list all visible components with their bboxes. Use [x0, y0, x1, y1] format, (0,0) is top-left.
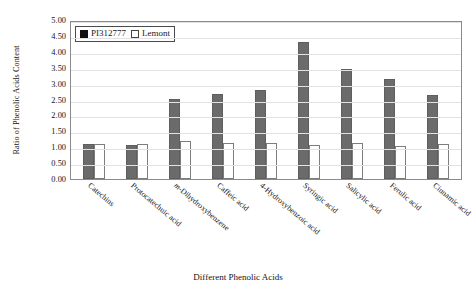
y-axis-title: Ratio of Phenolic Acids Content	[10, 18, 24, 182]
bar-lemont	[395, 146, 406, 179]
x-axis-tick-label: Catechins	[86, 181, 116, 208]
y-axis-tick-label: 1.50	[51, 127, 66, 136]
chart-root: Ratio of Phenolic Acids Content 0.000.50…	[0, 0, 476, 293]
y-axis-tick-label: 5.00	[51, 16, 66, 25]
bar-group	[245, 22, 288, 179]
grid-line	[71, 70, 461, 71]
bar-pi312777	[298, 42, 309, 179]
bar-groups	[71, 22, 461, 179]
bar-group	[373, 22, 416, 179]
grid-line	[71, 133, 461, 134]
grid-line	[71, 54, 461, 55]
grid-line	[71, 38, 461, 39]
grid-line	[71, 102, 461, 103]
x-axis-tick-label: Cinnamic acid	[431, 181, 472, 218]
bar-group	[116, 22, 159, 179]
bar-pi312777	[427, 95, 438, 179]
bar-pi312777	[169, 99, 180, 179]
x-axis-tick-label: Salicylic acid	[345, 181, 384, 216]
chart-legend: PI312777 Lemont	[75, 26, 175, 42]
grid-line	[71, 86, 461, 87]
y-axis-tick-label: 0.50	[51, 159, 66, 168]
x-axis-tick-label: Ferulic acid	[388, 181, 423, 212]
x-axis-title: Different Phenolic Acids	[0, 272, 476, 282]
x-axis-tick-labels: CatechinsProtocatechuic acidm-Dihydroxyb…	[70, 181, 462, 261]
bar-group	[159, 22, 202, 179]
y-axis-tick-label: 4.50	[51, 32, 66, 41]
bar-group	[416, 22, 459, 179]
bar-group	[202, 22, 245, 179]
y-axis-tick-label: 2.00	[51, 111, 66, 120]
bar-lemont	[180, 141, 191, 179]
plot-area: PI312777 Lemont	[70, 21, 462, 180]
grid-line	[71, 165, 461, 166]
y-axis-tick-label: 1.00	[51, 143, 66, 152]
bar-pi312777	[384, 79, 395, 179]
legend-swatch-icon-series-1	[80, 30, 88, 38]
y-axis-tick-label: 3.00	[51, 80, 66, 89]
x-axis-tick-label: Syringic acid	[302, 181, 340, 215]
grid-line	[71, 117, 461, 118]
bar-group	[73, 22, 116, 179]
bar-pi312777	[212, 94, 223, 179]
y-axis-tick-label: 3.50	[51, 64, 66, 73]
bar-group	[330, 22, 373, 179]
bar-group	[287, 22, 330, 179]
grid-line	[71, 22, 461, 23]
grid-line	[71, 149, 461, 150]
x-axis-tick-label: Caffeic acid	[215, 181, 250, 213]
y-axis-tick-labels: 0.000.501.001.502.002.503.003.504.004.50…	[32, 0, 66, 293]
y-axis-tick-label: 0.00	[51, 175, 66, 184]
legend-swatch-icon-series-2	[131, 30, 139, 38]
y-axis-tick-label: 4.00	[51, 48, 66, 57]
y-axis-tick-label: 2.50	[51, 96, 66, 105]
